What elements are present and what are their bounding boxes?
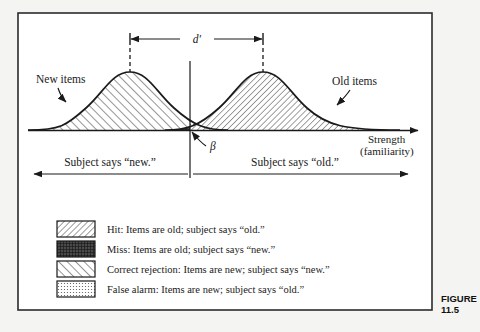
legend-label-false-alarm: False alarm: Items are new; subject says… <box>107 284 304 295</box>
old-items-label: Old items <box>332 75 378 87</box>
axis-label-line1: Strength <box>368 133 406 145</box>
legend-label-hit: Hit: Items are old; subject says “old.” <box>107 224 265 235</box>
says-old-label: Subject says “old.” <box>251 156 339 169</box>
beta-label: β <box>209 140 216 153</box>
legend-item-false-alarm: False alarm: Items are new; subject says… <box>57 281 304 297</box>
light-dot-grid-swatch <box>57 281 95 297</box>
figure-svg: β d′ New items Old items Strength (famil… <box>0 0 480 332</box>
legend-label-miss: Miss: Items are old; subject says “new.” <box>107 244 275 255</box>
dark-crosshatch-swatch <box>57 241 95 257</box>
backslash-hatch-swatch <box>57 221 95 237</box>
legend-item-hit: Hit: Items are old; subject says “old.” <box>57 221 265 237</box>
forwardslash-hatch-swatch <box>57 261 95 277</box>
d-prime-label: d′ <box>193 33 202 45</box>
axis-label-line2: (familiarity) <box>360 145 414 158</box>
caption-label: FIGURE <box>441 293 477 304</box>
figure-root: β d′ New items Old items Strength (famil… <box>0 0 480 332</box>
legend-item-miss: Miss: Items are old; subject says “new.” <box>57 241 275 257</box>
says-new-label: Subject says “new.” <box>64 156 156 169</box>
new-items-label: New items <box>36 73 86 85</box>
caption-number: 11.5 <box>441 304 460 315</box>
legend-label-correct-rejection: Correct rejection: Items are new; subjec… <box>107 264 330 275</box>
